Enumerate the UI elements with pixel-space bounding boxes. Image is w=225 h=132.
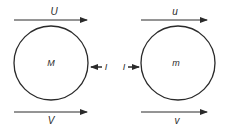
left-body: U M I V [14,6,108,126]
left-top-velocity-label: U [50,6,58,17]
right-mass-label: m [172,58,180,68]
left-mass-label: M [47,58,55,68]
right-impulse-label: I [123,62,126,72]
left-impulse-label: I [105,62,108,72]
left-bottom-velocity-label: V [48,115,56,126]
right-body: u m I v [123,6,215,126]
right-top-velocity-label: u [172,6,178,17]
right-bottom-velocity-label: v [175,115,181,126]
collision-diagram: U M I V u m I v [0,0,225,132]
